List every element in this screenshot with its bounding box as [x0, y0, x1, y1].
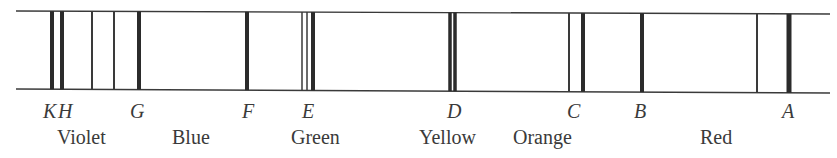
- line-label-f: F: [242, 101, 255, 121]
- color-label-blue: Blue: [172, 126, 210, 148]
- line-label-c: C: [567, 101, 581, 121]
- line-label-d: D: [447, 101, 462, 121]
- color-label-yellow: Yellow: [419, 126, 476, 148]
- color-label-green: Green: [291, 126, 340, 148]
- color-label-violet: Violet: [57, 126, 106, 148]
- line-label-e: E: [302, 101, 315, 121]
- fraunhofer-lines: [52, 11, 789, 93]
- line-label-g: G: [130, 101, 145, 121]
- color-label-orange: Orange: [513, 126, 572, 148]
- line-label-k: K: [43, 101, 57, 121]
- line-label-b: B: [634, 101, 647, 121]
- line-label-h: H: [58, 101, 73, 121]
- color-label-red: Red: [700, 126, 732, 148]
- line-label-a: A: [782, 101, 795, 121]
